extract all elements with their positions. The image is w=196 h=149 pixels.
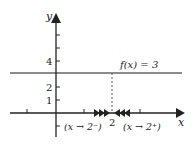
function-label: f(x) = 3 <box>119 59 158 70</box>
y-axis-label: y <box>45 10 53 23</box>
y-tick-label-2: 2 <box>46 82 52 93</box>
right-approach-arrows-icon <box>114 109 130 117</box>
x-tick-label-2: 2 <box>109 117 115 128</box>
y-tick-label-1: 1 <box>46 95 52 106</box>
y-axis-arrow-icon <box>51 13 61 23</box>
y-tick-label-4: 4 <box>46 56 52 67</box>
left-approach-arrows-icon <box>94 109 110 117</box>
left-approach-label: (x → 2⁻) <box>64 121 102 132</box>
x-axis-label: x <box>178 116 185 129</box>
limit-diagram: y x 4 2 1 2 f(x) = 3 (x → 2⁻) (x → 2⁺) <box>0 0 196 149</box>
right-approach-label: (x → 2⁺) <box>123 121 161 132</box>
